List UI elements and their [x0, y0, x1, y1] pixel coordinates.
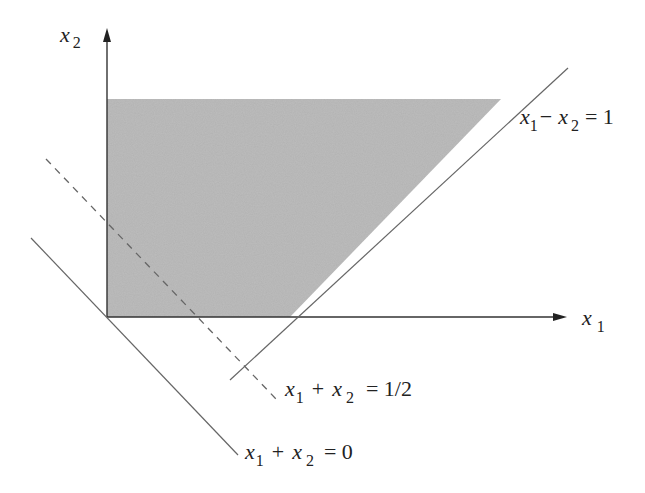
- label-x1-plus-x2-eq-half: x1+x2= 1/2: [284, 376, 412, 406]
- y-axis-arrow-icon: [103, 28, 111, 42]
- x-axis-arrow-icon: [553, 313, 567, 321]
- label-x1-minus-x2-eq-1: x1−x2= 1: [519, 104, 614, 134]
- y-axis-label: x2: [59, 22, 81, 51]
- label-x1-plus-x2-eq-0: x1+x2= 0: [244, 439, 353, 469]
- x-axis-label: x1: [581, 305, 605, 335]
- feasible-region-diagram: x2 x1 x1−x2= 1 x1+x2= 1/2 x1+x2= 0: [0, 0, 645, 493]
